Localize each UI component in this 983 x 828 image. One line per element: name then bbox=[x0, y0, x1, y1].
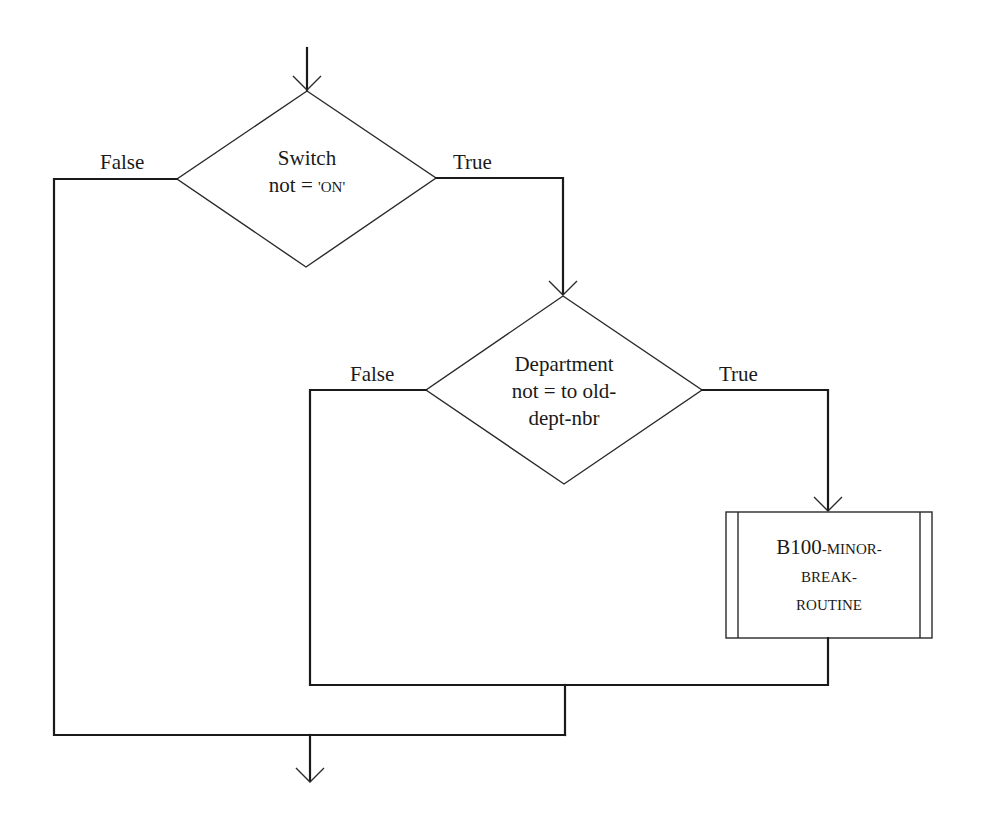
entry-arrow bbox=[293, 48, 321, 90]
process-line3: ROUTINE bbox=[738, 591, 920, 619]
switch-value: 'ON' bbox=[318, 179, 345, 195]
connector-process-out bbox=[565, 638, 828, 685]
process-line1: B100-MINOR- bbox=[738, 533, 920, 563]
switch-true-label: True bbox=[453, 150, 492, 174]
decision-switch-line1: Switch bbox=[207, 145, 407, 172]
department-false-label: False bbox=[350, 362, 394, 386]
decision-department-text: Department not = to old- dept-nbr bbox=[464, 351, 664, 432]
department-true-label: True bbox=[719, 362, 758, 386]
decision-switch-text: Switch not = 'ON' bbox=[207, 145, 407, 201]
decision-switch-line2: not = 'ON' bbox=[207, 172, 407, 201]
switch-false-label: False bbox=[100, 150, 144, 174]
connector-switch-false bbox=[54, 179, 310, 735]
decision-department-line1: Department bbox=[464, 351, 664, 378]
connector-switch-true bbox=[436, 178, 577, 295]
process-line2: BREAK- bbox=[738, 563, 920, 591]
exit-arrow bbox=[296, 735, 324, 782]
connector-department-true bbox=[702, 390, 842, 511]
decision-department-line2: not = to old- bbox=[464, 378, 664, 405]
decision-department-line3: dept-nbr bbox=[464, 405, 664, 432]
process-text: B100-MINOR- BREAK- ROUTINE bbox=[738, 533, 920, 619]
